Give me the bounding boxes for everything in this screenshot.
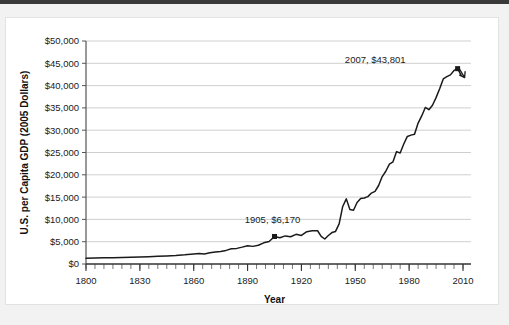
x-tick-label: 1920 — [291, 275, 312, 286]
y-tick-label: $10,000 — [45, 214, 79, 225]
annotation-marker — [272, 234, 277, 239]
x-tick-label: 1800 — [75, 275, 96, 286]
y-tick-label: $15,000 — [45, 192, 79, 203]
x-tick-label: 1830 — [129, 275, 150, 286]
x-tick-label: 1950 — [345, 275, 366, 286]
x-tick-label: 1980 — [399, 275, 420, 286]
y-tick-label: $0 — [68, 258, 79, 269]
x-tick-label: 2010 — [452, 275, 473, 286]
screenshot-page: $0$5,000$10,000$15,000$20,000$25,000$30,… — [0, 0, 509, 325]
y-tick-label: $25,000 — [45, 147, 79, 158]
y-tick-label: $50,000 — [45, 35, 79, 46]
gdp-line-chart: $0$5,000$10,000$15,000$20,000$25,000$30,… — [6, 18, 498, 304]
y-axis-title: U.S. per Capita GDP (2005 Dollars) — [19, 71, 30, 235]
y-tick-label: $40,000 — [45, 80, 79, 91]
x-tick-label: 1890 — [237, 275, 258, 286]
x-axis-title: Year — [264, 294, 285, 304]
y-tick-label: $35,000 — [45, 102, 79, 113]
chart-figure-card: $0$5,000$10,000$15,000$20,000$25,000$30,… — [5, 17, 499, 305]
y-tick-label: $30,000 — [45, 125, 79, 136]
chart-background — [6, 18, 498, 304]
y-tick-label: $20,000 — [45, 169, 79, 180]
top-decoration-band — [0, 0, 509, 4]
x-tick-label: 1860 — [183, 275, 204, 286]
y-tick-label: $5,000 — [50, 236, 79, 247]
y-tick-label: $45,000 — [45, 58, 79, 69]
annotation-label: 1905, $6,170 — [245, 214, 300, 225]
annotation-label: 2007, $43,801 — [345, 54, 406, 65]
